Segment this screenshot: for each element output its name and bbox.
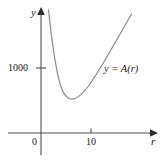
y-axis-arrowhead <box>37 7 45 15</box>
y-tick-label-1000: 1000 <box>8 63 28 73</box>
curve-A-of-r <box>49 10 132 99</box>
y-axis-label: y <box>31 7 36 18</box>
plot-area <box>0 0 164 164</box>
graph-figure: y r 1000 0 10 y = A(r) <box>0 0 164 164</box>
curve-equation-label: y = A(r) <box>104 64 138 75</box>
x-axis-label: r <box>151 136 155 147</box>
x-tick-label-0: 0 <box>32 137 37 147</box>
x-tick-label-10: 10 <box>86 137 96 147</box>
